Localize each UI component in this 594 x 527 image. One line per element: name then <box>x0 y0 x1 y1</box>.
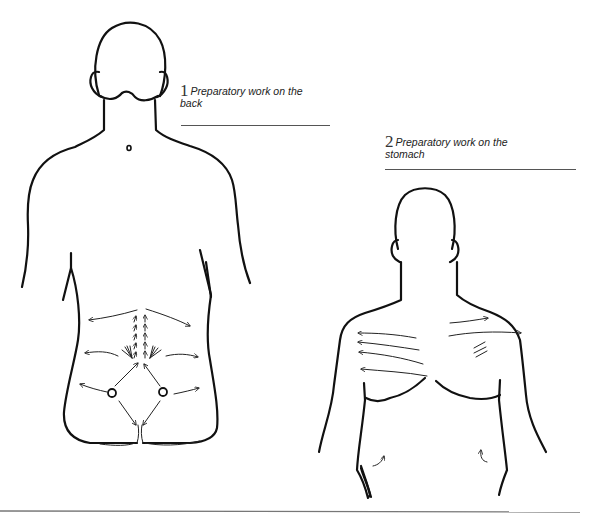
stomach-massage-arrows <box>358 318 521 466</box>
right-pectoral-line <box>436 381 500 399</box>
front-left-shoulder-arm <box>319 262 401 452</box>
front-figure <box>319 188 546 498</box>
back-left-shoulder-arm <box>22 100 104 287</box>
front-head-outline <box>395 188 454 249</box>
front-left-torso <box>357 383 370 498</box>
neck-point-icon <box>127 146 131 151</box>
body-drawings <box>0 0 594 527</box>
back-right-torso <box>143 250 217 443</box>
back-left-waist-line <box>63 268 71 300</box>
back-hairline <box>100 92 158 101</box>
back-head-outline <box>95 23 165 96</box>
left-pectoral-line <box>366 378 425 401</box>
front-right-torso <box>499 380 507 495</box>
left-pressure-point-icon <box>108 389 116 397</box>
back-right-shoulder-arm <box>155 100 250 283</box>
back-massage-arrows <box>80 309 199 425</box>
bottom-rule <box>0 511 580 512</box>
back-figure <box>22 23 250 446</box>
buttock-cleft <box>137 425 143 443</box>
right-pressure-point-icon <box>159 388 167 396</box>
illustration-page: 1Preparatory work on the back 2Preparato… <box>0 0 594 527</box>
